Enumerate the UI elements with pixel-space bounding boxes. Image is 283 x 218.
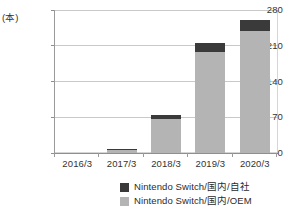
bar-group	[55, 10, 99, 153]
x-tick-mark	[276, 153, 277, 157]
bars-layer	[55, 10, 277, 153]
legend-label: Nintendo Switch/国内/OEM	[134, 195, 252, 207]
x-axis-labels: 2016/32017/32018/32019/32020/3	[55, 158, 277, 172]
bar-segment-oem[interactable]	[107, 150, 137, 153]
bar-group	[233, 10, 277, 153]
x-tick-label: 2019/3	[188, 158, 232, 170]
x-tick-label: 2016/3	[55, 158, 99, 170]
bar-segment-oem[interactable]	[195, 52, 225, 153]
bar-segment-own[interactable]	[195, 43, 225, 52]
legend-label: Nintendo Switch/国内/自社	[134, 181, 250, 193]
x-tick-label: 2020/3	[233, 158, 277, 170]
x-tick-label: 2017/3	[99, 158, 143, 170]
y-axis-unit-label: (本)	[2, 13, 18, 23]
bar-group	[144, 10, 188, 153]
chart-legend: Nintendo Switch/国内/自社Nintendo Switch/国内/…	[120, 180, 280, 208]
legend-item[interactable]: Nintendo Switch/国内/自社	[120, 180, 280, 194]
bar-segment-own[interactable]	[240, 20, 270, 31]
bar-group	[188, 10, 232, 153]
x-tick-mark	[98, 153, 99, 157]
legend-swatch-icon	[120, 183, 129, 192]
bar-stack[interactable]	[240, 20, 270, 153]
legend-item[interactable]: Nintendo Switch/国内/OEM	[120, 194, 280, 208]
bar-segment-oem[interactable]	[151, 119, 181, 153]
x-tick-label: 2018/3	[144, 158, 188, 170]
stacked-bar-chart: (本) 280210140700 2016/32017/32018/32019/…	[0, 0, 283, 218]
bar-group	[99, 10, 143, 153]
x-tick-mark	[187, 153, 188, 157]
bar-stack[interactable]	[107, 149, 137, 153]
legend-swatch-icon	[120, 197, 129, 206]
x-tick-mark	[54, 153, 55, 157]
x-tick-mark	[143, 153, 144, 157]
x-tick-mark	[232, 153, 233, 157]
bar-segment-oem[interactable]	[240, 31, 270, 153]
bar-stack[interactable]	[151, 115, 181, 153]
bar-stack[interactable]	[195, 43, 225, 153]
